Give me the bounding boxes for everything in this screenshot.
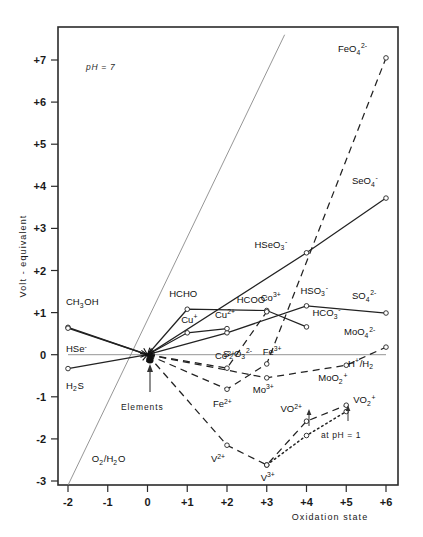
data-point: [384, 311, 389, 316]
data-point: [185, 331, 190, 336]
y-tick-label: +4: [33, 180, 46, 192]
data-point: [225, 326, 230, 331]
y-tick-label: 0: [40, 349, 46, 361]
x-tick-label: +4: [300, 496, 313, 508]
data-point: [304, 251, 309, 256]
at-ph1-annotation: at pH = 1: [321, 430, 361, 440]
data-point: [264, 463, 269, 468]
y-tick-label: -1: [36, 391, 46, 403]
x-axis-title: Oxidation state: [292, 512, 369, 522]
species-label: HSe-: [66, 343, 88, 355]
x-tick-label: +2: [221, 496, 234, 508]
data-point: [304, 433, 309, 438]
elements-annotation: Elements: [121, 402, 164, 412]
data-point: [264, 362, 269, 367]
x-tick-label: +3: [260, 496, 273, 508]
y-axis-title: Volt - equivalent: [18, 215, 28, 298]
ph-annotation: pH = 7: [85, 62, 115, 72]
data-point: [225, 366, 230, 371]
data-point: [264, 376, 269, 381]
data-point: [264, 309, 269, 314]
data-point: [66, 366, 71, 371]
data-point: [384, 345, 389, 350]
x-tick-label: 0: [144, 496, 150, 508]
data-point: [384, 56, 389, 61]
x-tick-label: -1: [103, 496, 113, 508]
x-tick-label: -2: [63, 496, 73, 508]
data-point: [384, 196, 389, 201]
frost-diagram-figure: +7+6+5+4+3+2+10-1-2-3 -2-10+1+2+3+4+5+6 …: [0, 0, 423, 537]
species-label: HSO3 -: [301, 284, 329, 297]
y-tick-label: +3: [33, 222, 46, 234]
species-label: O2 /H2 O: [92, 453, 125, 466]
data-point: [66, 326, 71, 331]
data-point: [225, 443, 230, 448]
data-point: [304, 419, 309, 424]
data-point: [304, 325, 309, 330]
y-tick-label: +1: [33, 307, 46, 319]
data-point: [185, 307, 190, 312]
species-label: SeO4 -: [352, 174, 379, 187]
y-tick-label: -2: [36, 433, 46, 445]
y-tick-label: -3: [36, 475, 46, 487]
data-point: [304, 304, 309, 309]
y-tick-label: +7: [33, 54, 46, 66]
species-label: HCO3 -: [313, 306, 342, 319]
data-point: [225, 387, 230, 392]
y-tick-label: +2: [33, 265, 46, 277]
y-tick-label: +6: [33, 96, 46, 108]
species-label: HCHO: [169, 288, 197, 299]
y-tick-label: +5: [33, 138, 46, 150]
x-tick-label: +6: [380, 496, 393, 508]
x-tick-label: +5: [340, 496, 353, 508]
frost-diagram-svg: +7+6+5+4+3+2+10-1-2-3 -2-10+1+2+3+4+5+6 …: [0, 0, 423, 537]
x-tick-label: +1: [181, 496, 194, 508]
